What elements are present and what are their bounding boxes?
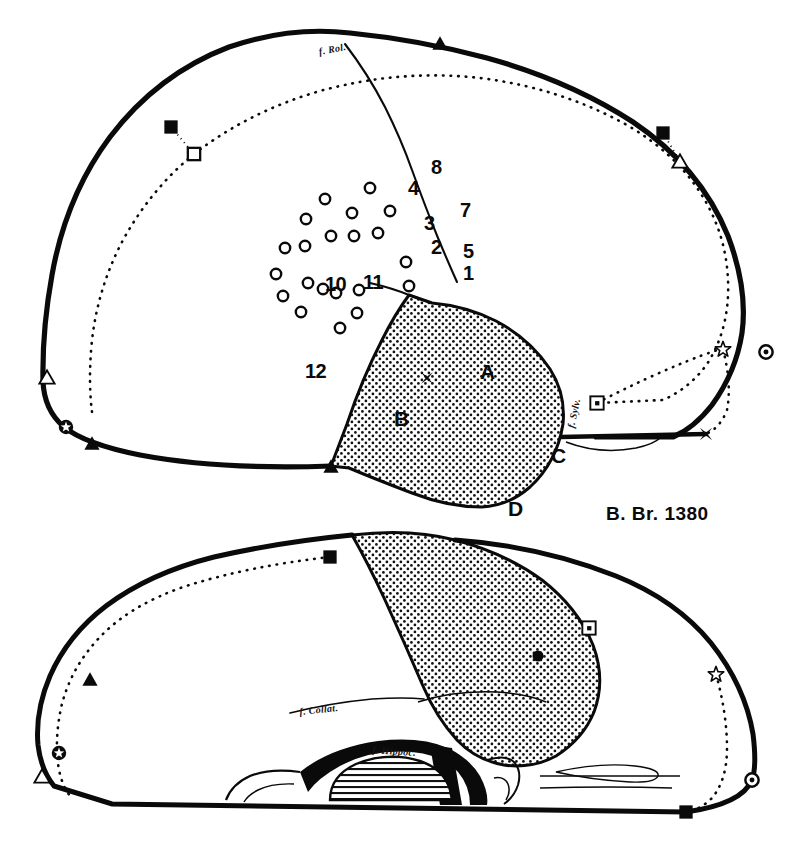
electrode-circle (373, 228, 383, 238)
insula-dotted-arc (597, 349, 723, 403)
sylvian-fissure-line (561, 434, 706, 437)
star-circled-icon (59, 420, 73, 434)
square-dot-icon (590, 396, 603, 409)
stipple-region-lower (352, 532, 600, 766)
electrode-circle (401, 257, 411, 267)
electrode-circle (347, 208, 357, 218)
electrode-circle (352, 308, 362, 318)
star-open-icon (715, 341, 731, 356)
basal-contour-left (226, 771, 300, 800)
upper-brain-view (39, 31, 772, 507)
electrode-circle (320, 194, 330, 204)
circle-filled-icon (532, 650, 543, 661)
electrode-circle (303, 278, 313, 288)
electrode-circle (326, 231, 336, 241)
collateral-fissure-line (290, 698, 424, 713)
brain-diagram-svg (0, 0, 800, 849)
superior-temporal-sulcus (370, 283, 432, 303)
uncus-contour-2 (494, 778, 509, 800)
square-filled-icon (323, 550, 336, 563)
electrode-circle (280, 243, 290, 253)
stipple-region-upper (331, 295, 563, 507)
electrode-circle (300, 241, 310, 251)
electrode-circle (365, 183, 375, 193)
inner-dotted-margin-lower (57, 557, 330, 798)
electrode-circle (278, 291, 288, 301)
inner-dotted-margin-lower-right (686, 674, 727, 812)
triangle-filled-icon (432, 36, 447, 49)
square-filled-icon (656, 126, 669, 139)
electrode-circle (271, 269, 281, 279)
triangle-filled-icon (82, 672, 97, 685)
inner-dotted-margin-upper-left (90, 154, 194, 412)
electrode-circle (335, 323, 345, 333)
square-filled-icon (679, 805, 692, 818)
square-filled-icon (164, 120, 177, 133)
electrode-circle (296, 307, 306, 317)
electrode-circle (385, 206, 395, 216)
electrode-circle (404, 281, 414, 291)
circle-dot-icon (745, 773, 758, 786)
basal-striation-loop (556, 765, 658, 782)
circle-dot-icon (759, 345, 772, 358)
lower-brain-view (34, 532, 758, 818)
square-dot-icon (582, 621, 595, 634)
square-open-icon (188, 148, 200, 160)
electrode-circle (301, 214, 311, 224)
rolandic-sulcus (345, 44, 457, 282)
electrode-circle (354, 285, 364, 295)
star-open-icon (708, 666, 724, 681)
electrode-circle (349, 231, 359, 241)
sylvian-fissure-detail (566, 438, 660, 450)
star-circled-icon (52, 746, 66, 760)
electrode-circle (331, 288, 341, 298)
electrode-circle-group (271, 183, 414, 333)
basal-striation-2 (540, 787, 672, 788)
electrode-circle (318, 284, 328, 294)
brain-figure: 8473251101112 ABCD f. Rol.f. Sylv.f. Col… (0, 0, 800, 849)
basal-contour-left-2 (244, 784, 294, 802)
